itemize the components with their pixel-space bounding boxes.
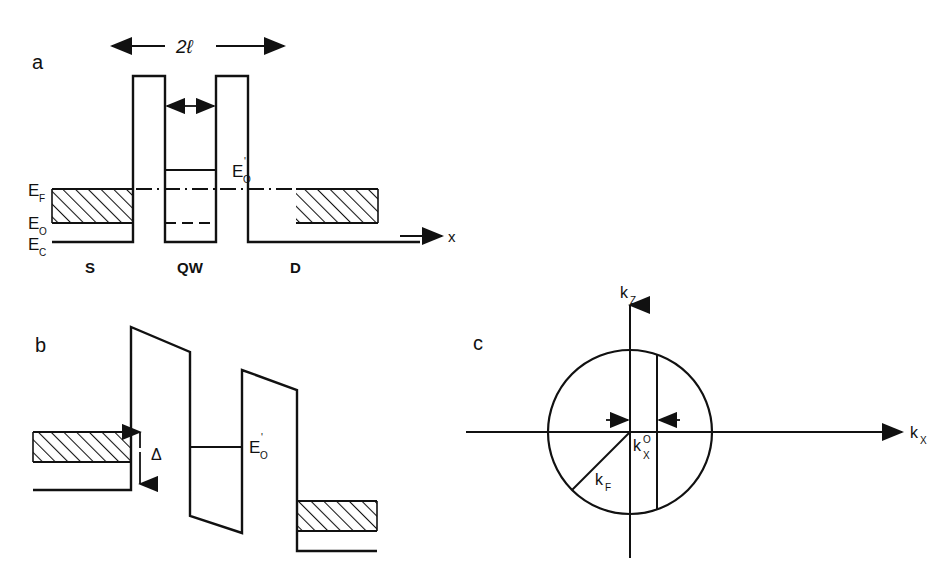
panel-b-source-electron-sea: [33, 432, 130, 462]
kx-axis-sub: X: [920, 435, 927, 446]
qw-resonant-level-prime: ': [244, 156, 246, 167]
kx-zero-sub: X: [643, 450, 650, 461]
figure-canvas: a 2ℓ x t: [0, 0, 951, 579]
panel-b-letter: b: [35, 334, 46, 356]
kF-sub: F: [605, 482, 611, 493]
panel-b-level-sub: O: [260, 450, 268, 461]
delta-label: Δ: [151, 446, 162, 463]
panel-b-level-prime: ': [261, 432, 263, 443]
drain-hatch-fill: [296, 189, 378, 223]
panel-b-drain-hatch-fill: [297, 501, 377, 531]
panel-a-letter: a: [32, 51, 44, 73]
kF-k: k: [595, 471, 604, 488]
panel-b-level-E: E: [249, 438, 260, 457]
panel-b-source-hatch-fill: [33, 432, 130, 462]
label-E0-sub: O: [39, 226, 47, 237]
qw-resonant-level-E: E: [232, 162, 243, 181]
canvas-background: [0, 0, 951, 579]
kz-axis-sub: Z: [630, 295, 636, 306]
label-EF-sub: F: [39, 193, 45, 204]
label-EC-E: E: [28, 235, 39, 254]
kx-axis-k: k: [910, 424, 919, 441]
kx-zero-k: k: [633, 437, 642, 454]
source-electron-sea: [52, 189, 133, 223]
x-axis-label: x: [448, 228, 456, 245]
panel-b-drain-electron-sea: [297, 501, 377, 531]
region-label-source: S: [85, 259, 95, 276]
source-hatch-fill: [52, 189, 133, 223]
panel-c-letter: c: [473, 332, 483, 354]
label-E0-E: E: [28, 214, 39, 233]
region-label-quantum-well: QW: [177, 259, 204, 276]
label-EC-sub: C: [39, 247, 46, 258]
dimension-2l-label: 2ℓ: [175, 36, 194, 57]
label-EF-E: E: [28, 181, 39, 200]
kx-zero-sup: O: [643, 434, 651, 445]
kz-axis-k: k: [620, 284, 629, 301]
drain-electron-sea: [296, 189, 378, 223]
qw-resonant-level-sub: O: [243, 174, 251, 185]
region-label-drain: D: [290, 259, 301, 276]
